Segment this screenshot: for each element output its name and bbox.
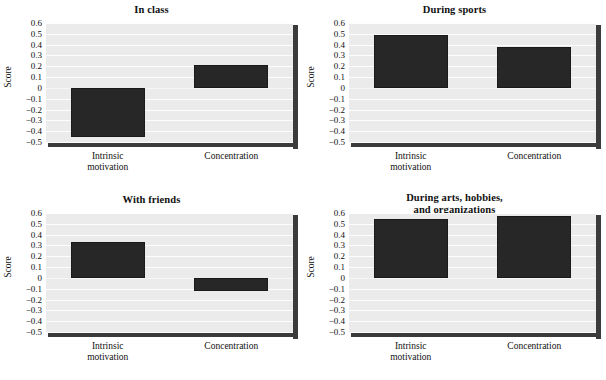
y-tick-label: −0.2 bbox=[26, 295, 42, 304]
x-category-label: Intrinsicmotivation bbox=[349, 341, 473, 363]
y-tick-label: 0.6 bbox=[334, 19, 345, 28]
plot-right-wall bbox=[596, 215, 601, 339]
x-category-label-line: motivation bbox=[46, 162, 170, 173]
gridline bbox=[349, 332, 596, 333]
panel-title-line: With friends bbox=[0, 194, 303, 206]
y-tick-label: 0.1 bbox=[31, 73, 42, 82]
zero-gridline bbox=[349, 278, 596, 279]
gridline bbox=[46, 23, 293, 24]
y-tick-label: 0.2 bbox=[31, 62, 42, 71]
panel-title: During sports bbox=[303, 4, 606, 16]
panel-title-line: In class bbox=[0, 4, 303, 16]
y-axis-ticks: 0.60.50.40.30.20.10−0.1−0.2−0.3−0.4−0.5 bbox=[317, 0, 347, 190]
y-axis-ticks: 0.60.50.40.30.20.10−0.1−0.2−0.3−0.4−0.5 bbox=[14, 0, 44, 190]
gridline bbox=[46, 55, 293, 56]
gridline bbox=[349, 213, 596, 214]
y-tick-label: 0.1 bbox=[334, 263, 345, 272]
x-category-label: Concentration bbox=[170, 341, 294, 352]
gridline bbox=[349, 289, 596, 290]
x-category-label: Concentration bbox=[473, 151, 597, 162]
x-category-label-line: Concentration bbox=[473, 151, 597, 162]
y-axis-label: Score bbox=[1, 0, 15, 190]
y-tick-label: 0.1 bbox=[31, 263, 42, 272]
gridline bbox=[349, 110, 596, 111]
y-tick-label: −0.5 bbox=[329, 328, 345, 337]
y-tick-label: 0.5 bbox=[334, 29, 345, 38]
gridline bbox=[349, 99, 596, 100]
gridline bbox=[349, 23, 596, 24]
plot-area bbox=[349, 23, 596, 142]
gridline bbox=[46, 300, 293, 301]
gridline bbox=[46, 310, 293, 311]
x-category-label-line: Concentration bbox=[170, 151, 294, 162]
bar bbox=[497, 47, 571, 88]
gridline bbox=[46, 45, 293, 46]
panel-title: During arts, hobbies,and organizations bbox=[303, 192, 606, 215]
y-tick-label: −0.5 bbox=[26, 138, 42, 147]
bar bbox=[71, 88, 145, 137]
y-axis-label-text: Score bbox=[306, 256, 316, 278]
figure-grid: In classScore0.60.50.40.30.20.10−0.1−0.2… bbox=[0, 0, 606, 380]
y-tick-label: −0.1 bbox=[329, 284, 345, 293]
y-tick-label: −0.4 bbox=[329, 317, 345, 326]
y-tick-label: 0.6 bbox=[334, 209, 345, 218]
gridline bbox=[46, 142, 293, 143]
x-category-label: Intrinsicmotivation bbox=[46, 151, 170, 173]
y-tick-label: 0.6 bbox=[31, 209, 42, 218]
y-tick-label: −0.1 bbox=[329, 94, 345, 103]
y-tick-label: −0.4 bbox=[26, 317, 42, 326]
x-category-label-line: Intrinsic bbox=[46, 151, 170, 162]
y-tick-label: 0 bbox=[38, 83, 43, 92]
plot-area bbox=[46, 23, 293, 142]
x-category-label-line: Concentration bbox=[473, 341, 597, 352]
gridline bbox=[46, 213, 293, 214]
y-tick-label: −0.3 bbox=[26, 306, 42, 315]
plot-right-wall bbox=[293, 25, 298, 149]
y-tick-label: 0.3 bbox=[334, 241, 345, 250]
gridline bbox=[349, 120, 596, 121]
chart-panel: In classScore0.60.50.40.30.20.10−0.1−0.2… bbox=[0, 0, 303, 190]
panel-title: In class bbox=[0, 4, 303, 16]
x-category-label-line: motivation bbox=[349, 162, 473, 173]
y-tick-label: 0 bbox=[38, 273, 43, 282]
plot-area bbox=[349, 213, 596, 332]
bar bbox=[194, 65, 268, 88]
y-tick-label: 0.2 bbox=[334, 62, 345, 71]
x-category-label-line: Intrinsic bbox=[349, 151, 473, 162]
y-tick-label: 0 bbox=[341, 273, 346, 282]
y-axis-label-text: Score bbox=[306, 66, 316, 88]
chart-panel: During sportsScore0.60.50.40.30.20.10−0.… bbox=[303, 0, 606, 190]
y-tick-label: −0.3 bbox=[329, 306, 345, 315]
y-tick-label: 0.5 bbox=[334, 219, 345, 228]
y-axis-label: Score bbox=[304, 190, 318, 380]
gridline bbox=[46, 332, 293, 333]
y-tick-label: −0.5 bbox=[329, 138, 345, 147]
gridline bbox=[349, 321, 596, 322]
x-category-label-line: Concentration bbox=[170, 341, 294, 352]
panel-title-line: During arts, hobbies, bbox=[303, 192, 606, 204]
y-tick-label: 0.5 bbox=[31, 219, 42, 228]
y-tick-label: 0.3 bbox=[31, 241, 42, 250]
y-tick-label: −0.4 bbox=[329, 127, 345, 136]
bar bbox=[71, 242, 145, 278]
bar bbox=[194, 278, 268, 291]
y-tick-label: −0.2 bbox=[329, 105, 345, 114]
x-category-label: Concentration bbox=[473, 341, 597, 352]
gridline bbox=[46, 235, 293, 236]
x-category-label-line: Intrinsic bbox=[349, 341, 473, 352]
y-tick-label: −0.2 bbox=[329, 295, 345, 304]
gridline bbox=[349, 300, 596, 301]
y-tick-label: −0.3 bbox=[26, 116, 42, 125]
x-category-label-line: Intrinsic bbox=[46, 341, 170, 352]
gridline bbox=[349, 131, 596, 132]
y-tick-label: −0.2 bbox=[26, 105, 42, 114]
bar bbox=[497, 216, 571, 278]
y-tick-label: 0.4 bbox=[334, 230, 345, 239]
x-category-label: Intrinsicmotivation bbox=[349, 151, 473, 173]
chart-panel: During arts, hobbies,and organizationsSc… bbox=[303, 190, 606, 380]
zero-gridline bbox=[349, 88, 596, 89]
x-category-label: Concentration bbox=[170, 151, 294, 162]
panel-title-line: During sports bbox=[303, 4, 606, 16]
y-tick-label: 0.1 bbox=[334, 73, 345, 82]
y-axis-ticks: 0.60.50.40.30.20.10−0.1−0.2−0.3−0.4−0.5 bbox=[14, 190, 44, 380]
